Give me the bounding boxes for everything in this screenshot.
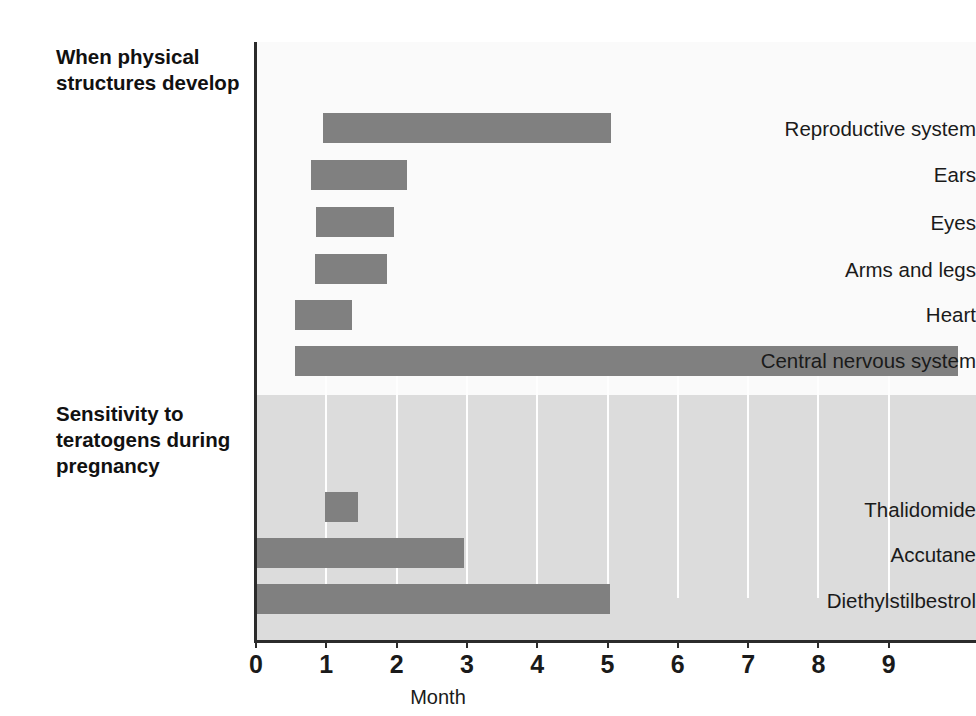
x-tick-label-7: 7 <box>741 650 755 679</box>
row-label-reproductive-system: Reproductive system <box>730 117 976 141</box>
x-tick-label-8: 8 <box>811 650 825 679</box>
row-label-central-nervous-system: Central nervous system <box>730 349 976 373</box>
x-tick-label-4: 4 <box>530 650 544 679</box>
x-tick-9 <box>888 640 890 648</box>
y-axis-line <box>254 42 257 641</box>
row-label-eyes: Eyes <box>730 211 976 235</box>
gridline-month-5 <box>607 353 609 598</box>
x-axis-line <box>254 640 976 643</box>
bar-reproductive-system <box>323 113 611 143</box>
x-tick-5 <box>607 640 609 648</box>
row-label-arms-and-legs: Arms and legs <box>730 258 976 282</box>
section-title-physical-structures: When physical structures develop <box>56 44 286 96</box>
teratogen-development-chart: 0123456789 Month When physical structure… <box>0 0 976 716</box>
x-axis-title: Month <box>0 686 976 709</box>
gridline-month-6 <box>677 353 679 598</box>
x-tick-label-3: 3 <box>460 650 474 679</box>
x-tick-4 <box>536 640 538 648</box>
x-tick-3 <box>466 640 468 648</box>
x-tick-label-2: 2 <box>390 650 404 679</box>
gridline-month-3 <box>466 353 468 598</box>
gridline-month-4 <box>536 353 538 598</box>
section-title-teratogen-sensitivity: Sensitivity to teratogens during pregnan… <box>56 401 286 480</box>
x-axis-title-text: Month <box>410 686 466 708</box>
x-tick-label-0: 0 <box>249 650 263 679</box>
x-tick-2 <box>396 640 398 648</box>
row-label-accutane: Accutane <box>730 543 976 567</box>
bar-thalidomide <box>325 492 358 522</box>
x-tick-8 <box>817 640 819 648</box>
bar-ears <box>311 160 407 190</box>
row-label-thalidomide: Thalidomide <box>730 498 976 522</box>
x-tick-label-6: 6 <box>671 650 685 679</box>
row-label-diethylstilbestrol: Diethylstilbestrol <box>730 589 976 613</box>
x-tick-7 <box>747 640 749 648</box>
bar-diethylstilbestrol <box>256 584 610 614</box>
x-tick-0 <box>255 640 257 648</box>
row-label-heart: Heart <box>730 303 976 327</box>
row-label-ears: Ears <box>730 163 976 187</box>
bar-arms-and-legs <box>315 254 387 284</box>
x-tick-label-5: 5 <box>601 650 615 679</box>
x-tick-1 <box>325 640 327 648</box>
x-tick-label-1: 1 <box>319 650 333 679</box>
bar-heart <box>295 300 353 330</box>
x-tick-label-9: 9 <box>882 650 896 679</box>
bar-eyes <box>316 207 394 237</box>
bar-accutane <box>256 538 464 568</box>
x-tick-6 <box>677 640 679 648</box>
